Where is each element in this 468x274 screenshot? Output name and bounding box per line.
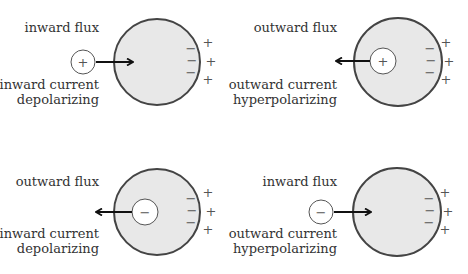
outside-signs: + + +	[203, 185, 217, 237]
ion-charge: +	[378, 54, 389, 69]
outside-signs: + + +	[203, 35, 217, 87]
inside-signs: − − −	[425, 41, 437, 80]
current-label-bottom-left: inward current	[0, 226, 99, 241]
svg-text:+: +	[206, 54, 217, 69]
flux-label-bottom-right: inward flux	[263, 174, 337, 189]
ion-charge: +	[78, 55, 89, 70]
svg-text:+: +	[203, 222, 214, 237]
svg-text:+: +	[440, 222, 451, 237]
svg-text:+: +	[441, 35, 452, 50]
svg-text:−: −	[425, 65, 436, 80]
svg-text:+: +	[444, 54, 455, 69]
flux-label-top-right: outward flux	[254, 20, 337, 35]
effect-label-top-left: depolarizing	[17, 92, 99, 107]
svg-text:−: −	[186, 215, 197, 230]
effect-label-bottom-right: hyperpolarizing	[233, 241, 337, 256]
svg-text:+: +	[206, 204, 217, 219]
panel-top-right: + − − − + + +	[337, 18, 454, 106]
current-label-top-left: inward current	[0, 77, 99, 92]
outside-signs: + + +	[441, 35, 455, 87]
svg-text:−: −	[424, 215, 435, 230]
flux-label-bottom-left: outward flux	[16, 174, 99, 189]
svg-text:+: +	[203, 72, 214, 87]
effect-label-top-right: hyperpolarizing	[233, 92, 337, 107]
svg-text:−: −	[186, 65, 197, 80]
svg-text:+: +	[203, 35, 214, 50]
inside-signs: − − −	[186, 191, 198, 230]
ion-charge: −	[316, 205, 327, 220]
svg-text:+: +	[441, 72, 452, 87]
outside-signs: + + +	[440, 185, 454, 237]
panel-bottom-left: − − − − + + +	[97, 169, 216, 255]
inside-signs: − − −	[424, 191, 436, 230]
svg-text:+: +	[443, 204, 454, 219]
current-label-top-right: outward current	[229, 77, 337, 92]
flux-label-top-left: inward flux	[25, 20, 99, 35]
effect-label-bottom-left: depolarizing	[17, 241, 99, 256]
svg-text:+: +	[440, 185, 451, 200]
ion-charge: −	[140, 205, 151, 220]
inside-signs: − − −	[186, 41, 198, 80]
current-label-bottom-right: outward current	[229, 226, 337, 241]
svg-text:+: +	[203, 185, 214, 200]
